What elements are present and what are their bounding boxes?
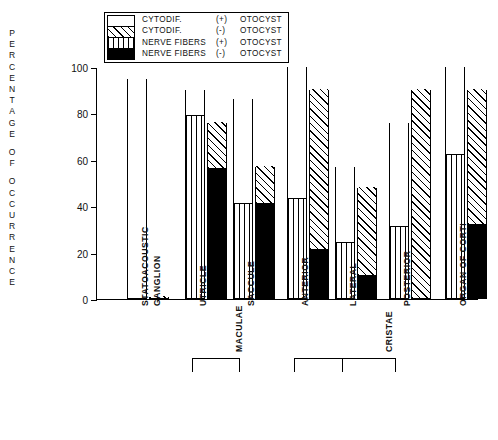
y-axis-title-letter: E — [9, 244, 15, 255]
legend-label-sign: (-) — [216, 49, 240, 60]
y-axis-tick — [91, 161, 97, 162]
legend-label-suffix: OTOCYST — [240, 26, 282, 37]
bar-segment-nerve-fibers — [208, 168, 226, 298]
y-axis-title-letter: E — [9, 277, 15, 288]
y-axis-tick-label: 0 — [82, 295, 88, 306]
legend-label-sign: (+) — [216, 38, 240, 49]
bar-segment-cytodif — [208, 122, 226, 168]
y-axis-title-letter: N — [9, 255, 15, 266]
y-axis-tick-label: 60 — [77, 155, 88, 166]
y-axis-tick-label: 100 — [71, 63, 88, 74]
legend-label-suffix: OTOCYST — [240, 38, 282, 49]
legend-label-text: CYTODIF. — [142, 15, 216, 26]
x-label-anterior: ANTERIOR — [300, 257, 310, 306]
bar-4-minus-otocyst — [357, 188, 377, 299]
bar-segment-nerve-fibers — [256, 203, 274, 298]
y-axis-title-letter: O — [9, 176, 16, 187]
y-axis-title-letter: T — [9, 95, 14, 106]
bar-segment-cytodif — [468, 89, 486, 224]
legend-label-text: NERVE FIBERS — [142, 38, 216, 49]
legend-label-suffix: OTOCYST — [240, 49, 282, 60]
bar-segment-nerve-fibers — [358, 275, 376, 298]
y-axis-title-letter: U — [9, 210, 15, 221]
y-axis-title-letter: O — [9, 147, 16, 158]
y-axis-title-letter: R — [9, 232, 15, 243]
y-axis-tick — [91, 207, 97, 208]
legend-item-cytodif-plus: CYTODIF. (+) OTOCYST — [142, 15, 282, 26]
x-group-label-maculae: MACULAE — [234, 305, 244, 352]
y-axis-tick-label: 80 — [77, 109, 88, 120]
legend-label-text: CYTODIF. — [142, 26, 216, 37]
bar-6-minus-otocyst — [467, 90, 487, 299]
bar-segment-nerve-fibers — [310, 249, 328, 298]
y-axis-title-letter: E — [9, 129, 15, 140]
y-axis-title-letter: A — [9, 106, 15, 117]
bar-5-minus-otocyst — [411, 90, 431, 299]
y-axis-title-letter: R — [9, 221, 15, 232]
x-label-utricle: UTRICLE — [198, 265, 208, 306]
y-axis-title-letter: P — [9, 28, 15, 39]
bar-segment-cytodif — [358, 187, 376, 275]
y-axis-title-letter: C — [9, 199, 15, 210]
y-axis-tick-label: 20 — [77, 248, 88, 259]
legend-label-sign: (-) — [216, 26, 240, 37]
y-axis-tick — [91, 68, 97, 69]
y-axis-title-letter: C — [9, 188, 15, 199]
y-axis-tick — [91, 114, 97, 115]
x-label-statoacoustic-ganglion-line1: STATOACOUSTIC — [140, 226, 150, 306]
bracket-cristae — [294, 358, 396, 372]
legend-label-suffix: OTOCYST — [240, 15, 282, 26]
legend-labels: CYTODIF. (+) OTOCYST CYTODIF. (-) OTOCYS… — [142, 15, 282, 60]
bar-segment-cytodif — [310, 89, 328, 249]
legend-swatch-nervefibers-plus — [108, 37, 134, 48]
y-axis-title-letter: F — [9, 158, 14, 169]
y-axis-title-letter: G — [9, 118, 16, 129]
legend-item-cytodif-minus: CYTODIF. (-) OTOCYST — [142, 26, 282, 37]
legend-swatch-cytodif-minus — [108, 26, 134, 37]
legend-label-sign: (+) — [216, 15, 240, 26]
x-label-statoacoustic-ganglion-line2: GANGLION — [152, 255, 162, 306]
bar-segment-cytodif — [446, 66, 464, 154]
bar-segment-cytodif — [390, 122, 408, 226]
x-group-label-cristae: CRISTAE — [384, 311, 394, 352]
legend-swatch-nervefibers-minus — [108, 48, 134, 59]
bar-segment-cytodif — [234, 99, 252, 203]
bar-segment-cytodif — [336, 166, 354, 243]
bar-segment-cytodif — [288, 66, 306, 198]
y-axis-tick — [91, 254, 97, 255]
bar-segment-nerve-fibers — [468, 224, 486, 298]
bar-segment-cytodif — [256, 166, 274, 203]
bar-segment-cytodif — [412, 89, 430, 298]
y-axis-title-letter: C — [9, 266, 15, 277]
bar-3-minus-otocyst — [309, 90, 329, 299]
y-axis-title-letter: R — [9, 50, 15, 61]
legend-swatch-cytodif-plus — [108, 16, 134, 26]
x-label-saccule: SACCULE — [246, 261, 256, 306]
chart-legend: CYTODIF. (+) OTOCYST CYTODIF. (-) OTOCYS… — [104, 12, 289, 63]
y-axis-tick-label: 40 — [77, 202, 88, 213]
y-axis-title: PERCENTAGEOFOCCURRENCE — [4, 28, 20, 288]
bar-1-minus-otocyst — [207, 123, 227, 299]
y-axis-title-letter: C — [9, 62, 15, 73]
bracket-maculae — [192, 358, 240, 372]
bar-segment-cytodif — [186, 89, 204, 115]
legend-swatches — [107, 15, 135, 60]
y-axis-title-letter: E — [9, 73, 15, 84]
x-label-organ-of-corti: ORGAN OF CORTI — [458, 223, 468, 306]
x-label-posterior: POSTERIOR — [402, 250, 412, 306]
y-axis-title-letter: E — [9, 39, 15, 50]
x-label-lateral: LATERAL — [348, 263, 358, 306]
bar-2-minus-otocyst — [255, 167, 275, 299]
y-axis-tick — [91, 300, 97, 301]
y-axis-title-letter: N — [9, 84, 15, 95]
legend-item-nervefibers-minus: NERVE FIBERS (-) OTOCYST — [142, 49, 282, 60]
legend-label-text: NERVE FIBERS — [142, 49, 216, 60]
legend-item-nervefibers-plus: NERVE FIBERS (+) OTOCYST — [142, 38, 282, 49]
